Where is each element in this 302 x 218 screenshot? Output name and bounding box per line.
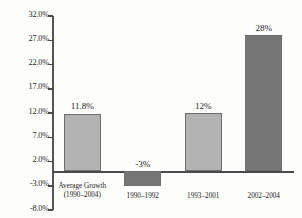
bar	[64, 114, 101, 171]
bar-chart: 32.0%27.0%22.0%17.0%12.0%7.0%2.0%-3.0%-8…	[0, 0, 302, 218]
y-axis-tick-label: 2.0%	[33, 155, 49, 164]
bar-value-label: 12%	[173, 101, 233, 111]
y-axis-tick-label: 27.0%	[29, 34, 49, 43]
bar-value-label: -3%	[113, 159, 173, 169]
x-axis-category-line: 2002–2004	[224, 192, 302, 201]
y-axis-tick-label: 7.0%	[33, 131, 49, 140]
y-axis-tick-label: 22.0%	[29, 58, 49, 67]
x-axis-category-label: 2002–2004	[224, 192, 302, 201]
x-axis-category-line: Average Growth	[42, 182, 122, 191]
bar-value-label: 11.8%	[52, 101, 112, 111]
bar	[245, 35, 282, 171]
y-axis-tick-label: 12.0%	[29, 107, 49, 116]
bar-value-label: 28%	[234, 23, 294, 33]
bar	[124, 171, 161, 186]
plot-area: 11.8%-3%12%28%	[52, 16, 294, 210]
y-axis-tick-label: -8.0%	[30, 204, 49, 213]
y-axis-tick-label: 17.0%	[29, 82, 49, 91]
bar	[185, 113, 222, 171]
y-axis-tick-label: 32.0%	[29, 10, 49, 19]
zero-baseline	[52, 171, 294, 173]
